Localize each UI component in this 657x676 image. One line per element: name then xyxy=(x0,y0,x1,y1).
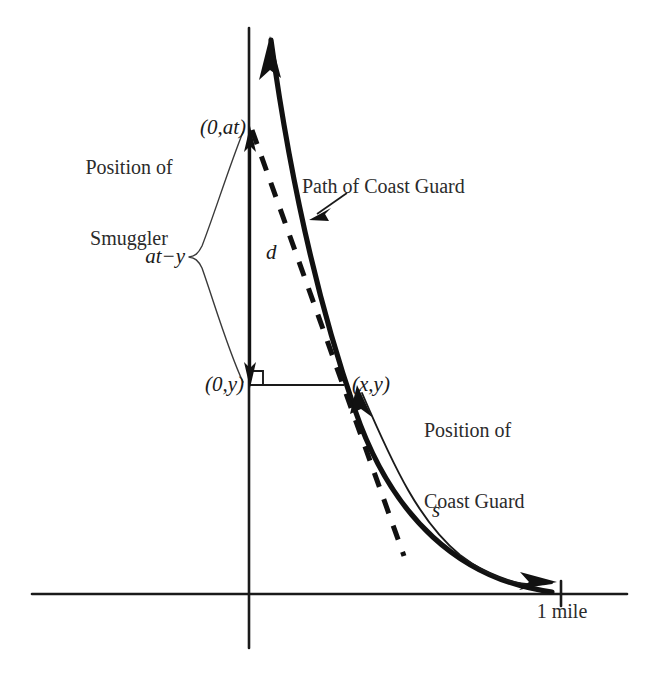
point-xy-label: (x,y) xyxy=(352,372,390,397)
point-y-label: (0,y) xyxy=(205,372,244,397)
one-mile-label: 1 mile xyxy=(537,600,588,624)
coast-guard-curve-arrowhead xyxy=(259,36,281,80)
path-of-coast-guard-label: Path of Coast Guard xyxy=(302,175,465,199)
arc-length-s-label: s xyxy=(432,498,440,523)
segment-aty-label: at−y xyxy=(145,244,185,269)
coastguard-position-line1: Position of xyxy=(424,419,604,443)
path-callout-arrowhead xyxy=(309,208,331,221)
point-at-label: (0,at) xyxy=(200,115,246,140)
diagram-canvas xyxy=(0,0,657,676)
coastguard-position-line2: Coast Guard xyxy=(424,490,604,514)
smuggler-position-label: Position of Smuggler xyxy=(56,109,202,298)
pursuit-curve-figure: Position of Smuggler (0,at) at−y d Path … xyxy=(0,0,657,676)
smuggler-position-line1: Position of xyxy=(56,156,202,180)
segment-d-label: d xyxy=(266,240,277,265)
coastguard-position-label: Position of Coast Guard xyxy=(424,372,604,561)
